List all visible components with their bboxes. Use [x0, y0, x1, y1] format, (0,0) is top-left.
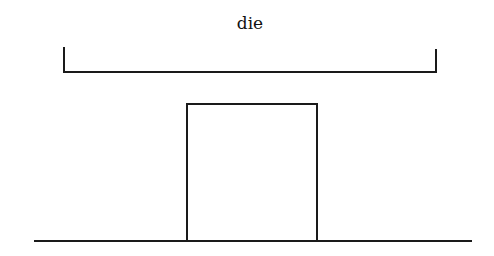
die-block [187, 104, 317, 241]
diagram-canvas [0, 0, 494, 256]
die-width-bracket [64, 48, 436, 72]
